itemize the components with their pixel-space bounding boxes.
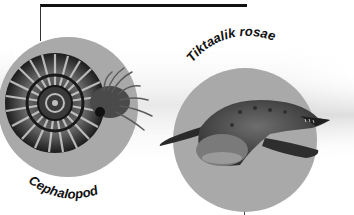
left-connector-line [40,5,41,41]
evolution-figure: Cephalopod [0,0,354,215]
figure-canvas: Cephalopod [0,0,354,215]
top-connector-line [40,4,247,7]
